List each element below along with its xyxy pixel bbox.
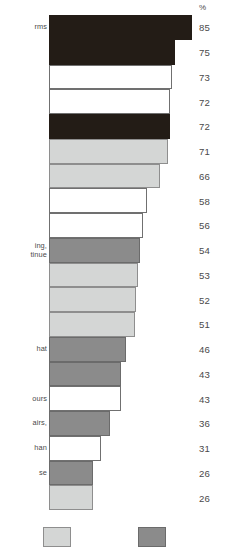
bar-value-label: 71 [199, 146, 210, 157]
bar-row: ing, tinue54 [0, 238, 229, 263]
bar-category-label: airs, [33, 419, 47, 427]
bar [49, 312, 135, 337]
bar-value-label: 85 [199, 22, 210, 33]
bar-value-label: 26 [199, 492, 210, 503]
bar [49, 362, 121, 387]
bar-category-label: ours [32, 394, 47, 402]
bar [49, 188, 147, 213]
bar-value-label: 43 [199, 368, 210, 379]
bar-row: 72 [0, 89, 229, 114]
bar [49, 287, 136, 312]
bar [49, 386, 121, 411]
bar-row: hat46 [0, 337, 229, 362]
bar-value-label: 51 [199, 319, 210, 330]
bar-value-label: 52 [199, 294, 210, 305]
bar-category-label: han [34, 444, 47, 452]
bar [49, 89, 170, 114]
bar-category-label: ing, tinue [30, 242, 47, 259]
bar-value-label: 58 [199, 195, 210, 206]
bar-row: 53 [0, 263, 229, 288]
bar-row: 73 [0, 65, 229, 90]
bar-value-label: 31 [199, 443, 210, 454]
bar-value-label: 73 [199, 71, 210, 82]
bar-value-label: 75 [199, 47, 210, 58]
bar-row: rms85 [0, 15, 229, 40]
bar-row: 71 [0, 139, 229, 164]
bar-value-label: 36 [199, 418, 210, 429]
bar-row: 56 [0, 213, 229, 238]
bar-category-label: se [39, 469, 47, 477]
bar-row: 75 [0, 40, 229, 65]
bar-row: 51 [0, 312, 229, 337]
chart-legend [0, 527, 229, 551]
bar [49, 238, 140, 263]
bar [49, 436, 101, 461]
bar-chart: % rms857573727271665856ing, tinue5453525… [0, 0, 229, 551]
bar-value-label: 54 [199, 245, 210, 256]
bar [49, 114, 170, 139]
bar-value-label: 26 [199, 467, 210, 478]
bar-row: 72 [0, 114, 229, 139]
bar-rows: rms857573727271665856ing, tinue54535251h… [0, 15, 229, 510]
bar [49, 164, 160, 189]
legend-swatch-medium [138, 527, 166, 547]
bar-row: 26 [0, 485, 229, 510]
bar-value-label: 72 [199, 121, 210, 132]
bar [49, 213, 143, 238]
bar-category-label: rms [34, 23, 47, 31]
bar-value-label: 53 [199, 269, 210, 280]
bar-value-label: 46 [199, 344, 210, 355]
bar-row: han31 [0, 436, 229, 461]
percent-axis-header: % [199, 3, 206, 12]
bar [49, 15, 192, 40]
bar [49, 411, 110, 436]
bar-row: 58 [0, 188, 229, 213]
bar [49, 263, 138, 288]
bar-value-label: 43 [199, 393, 210, 404]
bar-category-label: hat [36, 345, 47, 353]
bar [49, 65, 172, 90]
bar-row: airs,36 [0, 411, 229, 436]
bar [49, 139, 168, 164]
bar-row: ours43 [0, 386, 229, 411]
bar-row: 66 [0, 164, 229, 189]
bar [49, 461, 93, 486]
bar-value-label: 66 [199, 170, 210, 181]
bar-value-label: 56 [199, 220, 210, 231]
bar [49, 40, 175, 65]
legend-swatch-light [43, 527, 71, 547]
bar [49, 485, 93, 510]
bar [49, 337, 126, 362]
bar-row: 52 [0, 287, 229, 312]
bar-value-label: 72 [199, 96, 210, 107]
bar-row: 43 [0, 362, 229, 387]
bar-row: se26 [0, 461, 229, 486]
